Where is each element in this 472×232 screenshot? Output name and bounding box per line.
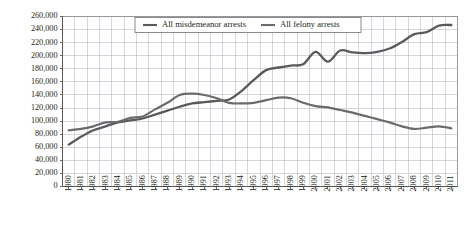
legend-entry-misdemeanor-label: All misdemeanor arrests (162, 19, 247, 29)
x-axis-tick-label: 1994 (236, 175, 245, 191)
x-axis-tick-label: 1984 (113, 175, 122, 191)
y-axis-tick-label: 0 (53, 181, 57, 190)
x-axis-tick-label: 2001 (323, 175, 332, 191)
x-axis-tick-label: 1990 (187, 175, 196, 191)
y-axis-tick-label: 200,000 (31, 51, 58, 60)
y-axis-tick-label: 20,000 (35, 168, 58, 177)
x-axis-tick-label: 1982 (88, 175, 97, 191)
x-axis-tick-label: 1995 (249, 175, 258, 191)
y-axis-tick-label: 180,000 (31, 64, 58, 73)
x-axis-tick-label: 2011 (446, 175, 455, 191)
x-axis-tick-label: 2000 (310, 175, 319, 191)
x-axis-tick-label: 1983 (101, 175, 110, 191)
y-axis: 020,00040,00060,00080,000100,000120,0001… (31, 11, 63, 190)
x-axis-tick-label: 1987 (150, 175, 159, 191)
x-axis-tick-label: 2009 (422, 175, 431, 191)
y-axis-tick-label: 80,000 (35, 129, 58, 138)
x-axis-tick-label: 2008 (409, 175, 418, 191)
y-axis-tick-label: 60,000 (35, 142, 58, 151)
line-chart: 020,00040,00060,00080,000100,000120,0001… (0, 0, 472, 232)
y-axis-tick-label: 100,000 (31, 116, 58, 125)
x-axis-tick-label: 1985 (125, 175, 134, 191)
x-axis-tick-label: 2007 (397, 175, 406, 191)
x-axis-tick-label: 1986 (138, 175, 147, 191)
x-axis-tick-label: 2005 (372, 175, 381, 191)
y-axis-tick-label: 220,000 (31, 38, 58, 47)
x-axis-tick-label: 2010 (434, 175, 443, 191)
x-axis-tick-label: 2004 (360, 175, 369, 191)
y-axis-tick-label: 40,000 (35, 155, 58, 164)
x-axis-tick-label: 1989 (175, 175, 184, 191)
x-axis-tick-label: 1998 (286, 175, 295, 191)
x-axis-tick-label: 2006 (384, 175, 393, 191)
y-axis-tick-label: 140,000 (31, 90, 58, 99)
chart-container: 020,00040,00060,00080,000100,000120,0001… (0, 0, 472, 232)
x-axis-tick-label: 1996 (261, 175, 270, 191)
x-axis-tick-label: 1993 (224, 175, 233, 191)
x-axis-tick-label: 1981 (76, 175, 85, 191)
legend-entry-felony-label: All felony arrests (280, 19, 340, 29)
y-axis-tick-label: 160,000 (31, 77, 58, 86)
y-axis-tick-label: 120,000 (31, 103, 58, 112)
x-axis-tick-label: 2002 (335, 175, 344, 191)
x-axis-tick-label: 1988 (162, 175, 171, 191)
x-axis-tick-label: 2003 (347, 175, 356, 191)
x-axis-tick-label: 1997 (273, 175, 282, 191)
x-axis-tick-label: 1980 (64, 175, 73, 191)
y-axis-tick-label: 260,000 (31, 11, 58, 20)
x-axis-tick-label: 1992 (212, 175, 221, 191)
y-axis-tick-label: 240,000 (31, 24, 58, 33)
chart-legend: All misdemeanor arrestsAll felony arrest… (135, 18, 361, 33)
x-axis-tick-label: 1991 (199, 175, 208, 191)
x-axis-tick-label: 1999 (298, 175, 307, 191)
